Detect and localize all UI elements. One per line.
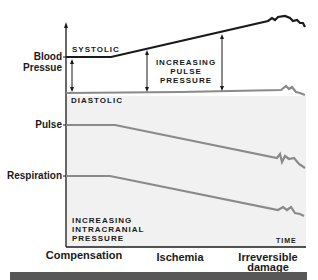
time-axis-label: TIME <box>276 236 297 245</box>
increasing-icp-label: INCREASING INTRACRANIAL PRESSURE <box>72 216 144 243</box>
phase-compensation: Compensation <box>44 250 124 260</box>
icp-line3: PRESSURE <box>72 234 144 243</box>
pulse-pressure-line3: PRESSURE <box>155 76 217 85</box>
y-label-respiration: Respiration <box>7 170 62 181</box>
pulse-pressure-line1: INCREASING <box>155 58 217 67</box>
diastolic-line <box>66 86 305 95</box>
icp-line2: INTRACRANIAL <box>72 225 144 234</box>
pulse-pressure-line2: PULSE <box>155 67 217 76</box>
phase-irreversible-damage: Irreversible damage <box>236 252 300 272</box>
diagram-canvas <box>0 0 318 280</box>
phase-ischemia: Ischemia <box>150 252 210 262</box>
y-label-pulse: Pulse <box>35 119 62 130</box>
blood-pressure-label-line1: Blood <box>23 51 62 62</box>
increasing-pulse-pressure-label: INCREASING PULSE PRESSURE <box>155 58 217 85</box>
systolic-label: SYSTOLIC <box>72 45 120 54</box>
y-label-blood-pressure: Blood Pressue <box>23 51 62 73</box>
icp-line1: INCREASING <box>72 216 144 225</box>
y-axis-arrow-icon <box>64 22 68 28</box>
bottom-bar <box>10 272 307 280</box>
blood-pressure-label-line2: Pressue <box>23 62 62 73</box>
irreversible-line2: damage <box>236 262 300 272</box>
diastolic-label: DIASTOLIC <box>71 96 123 105</box>
